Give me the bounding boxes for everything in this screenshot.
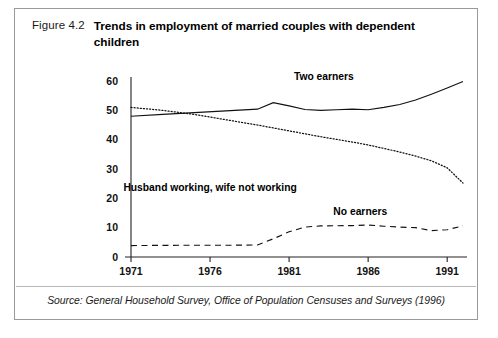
y-axis-tick-label: 0 (112, 251, 118, 263)
x-axis-tick-label: 1991 (436, 265, 460, 277)
series-line (131, 225, 463, 246)
chart-svg: 010203040506019711976198119861991Two ear… (15, 55, 477, 277)
y-axis-tick-label: 10 (106, 221, 118, 233)
x-axis-tick-label: 1976 (198, 265, 222, 277)
figure-frame: Figure 4.2 Trends in employment of marri… (14, 8, 478, 320)
x-axis-tick-label: 1981 (277, 265, 301, 277)
series-label: Husband working, wife not working (123, 182, 296, 193)
series-line (131, 107, 463, 183)
x-axis-tick-label: 1986 (356, 265, 380, 277)
x-axis-tick-label: 1971 (119, 265, 143, 277)
series-label: Two earners (294, 71, 354, 82)
source-divider (16, 286, 476, 287)
figure-header: Figure 4.2 Trends in employment of marri… (32, 19, 463, 50)
y-axis-tick-label: 30 (106, 163, 118, 175)
y-axis-tick-label: 60 (106, 75, 118, 87)
y-axis-tick-label: 20 (106, 192, 118, 204)
source-note: Source: General Household Survey, Office… (15, 295, 477, 306)
figure-title: Trends in employment of married couples … (94, 19, 424, 50)
y-axis-tick-label: 50 (106, 104, 118, 116)
series-label: No earners (333, 206, 387, 217)
line-chart: 010203040506019711976198119861991Two ear… (15, 55, 477, 277)
series-line (131, 82, 463, 117)
y-axis-tick-label: 40 (106, 133, 118, 145)
figure-number: Figure 4.2 (32, 19, 85, 31)
